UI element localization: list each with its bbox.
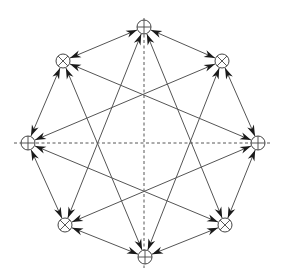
node-top-right [215, 54, 229, 68]
edge-right-to-bottom-right [228, 150, 255, 218]
edge-bottom-to-bottom-left [72, 228, 138, 254]
edge-right-to-top-left [70, 64, 251, 140]
octagram-diagram [0, 0, 284, 273]
edge-top-right-to-bottom [148, 68, 220, 250]
edge-left-to-top-left [31, 68, 60, 136]
nodes [21, 20, 265, 264]
edge-top-to-top-right [151, 30, 215, 58]
node-bottom-right [218, 218, 232, 232]
node-right [251, 136, 265, 150]
edge-top-right-to-right [225, 68, 255, 136]
edge-top-to-bottom-right [147, 34, 222, 218]
node-bottom-left [58, 218, 72, 232]
edge-bottom-right-to-left [35, 146, 218, 222]
node-top-left [56, 54, 70, 68]
edge-bottom-to-top-left [66, 68, 142, 250]
edge-right-to-bottom-left [72, 146, 251, 222]
edge-bottom-left-to-left [31, 150, 62, 218]
node-bottom [138, 250, 152, 264]
edge-top-to-bottom-left [68, 34, 141, 218]
dashed-axes [14, 18, 272, 268]
node-top [137, 20, 151, 34]
edge-bottom-right-to-bottom [152, 228, 218, 254]
edge-top-left-to-top [70, 30, 137, 58]
node-left [21, 136, 35, 150]
